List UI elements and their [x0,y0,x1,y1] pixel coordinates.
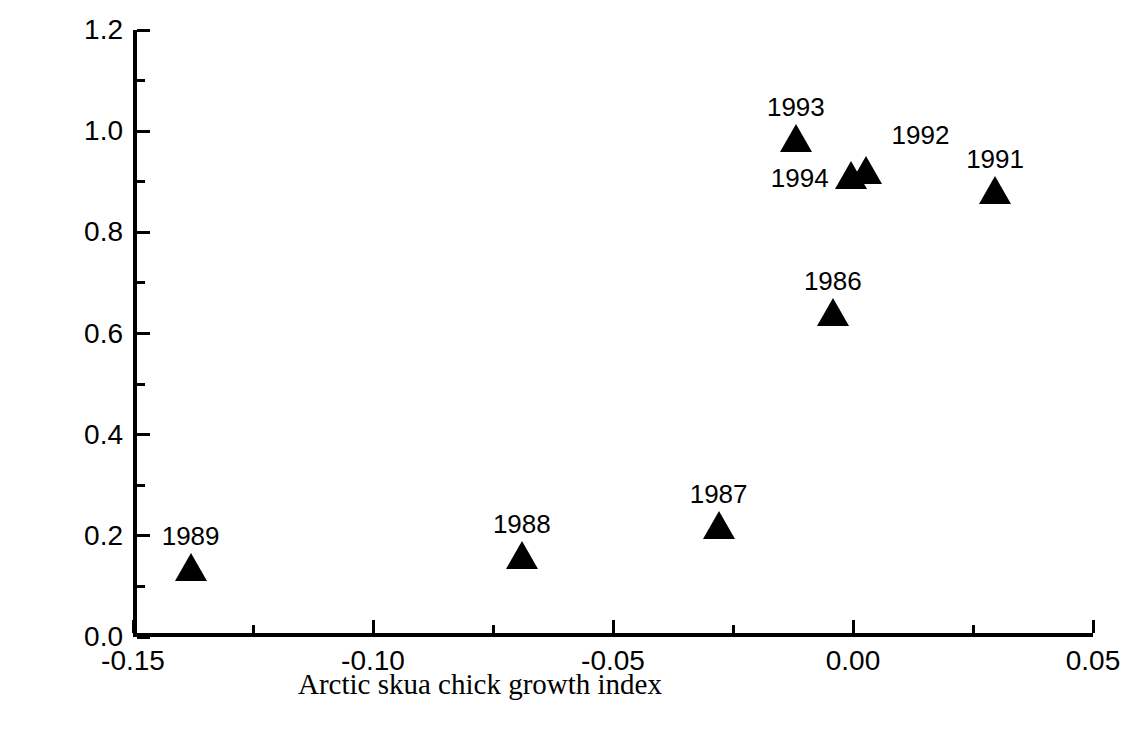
triangle-up-marker-icon [979,176,1011,204]
x-axis-minor-tick [252,625,255,633]
data-point-label: 1994 [771,163,829,194]
y-axis-minor-tick [137,383,145,386]
y-axis-tick-label: 1.2 [84,14,123,46]
x-tick-layer: -0.15-0.10-0.050.000.05 [133,633,1093,634]
x-axis-tick-label: 0.00 [826,645,881,677]
y-axis-minor-tick [137,484,145,487]
data-point-label: 1989 [162,521,220,552]
y-axis-major-tick [137,29,150,32]
x-axis-major-tick [1092,620,1095,633]
triangle-up-marker-icon [703,511,735,539]
data-point-label: 1986 [804,266,862,297]
plot-area: 0.00.20.40.60.81.01.2 -0.15-0.10-0.050.0… [133,30,1093,637]
y-axis-major-tick [137,231,150,234]
y-axis-minor-tick [137,585,145,588]
data-point-label: 1987 [690,479,748,510]
x-axis-tick-label: -0.05 [581,645,645,677]
chart-page: Number of fledglings per pair Arctic sku… [0,0,1137,739]
triangle-up-marker-icon [817,298,849,326]
data-point-label: 1992 [892,120,950,151]
x-axis-tick-label: 0.05 [1066,645,1121,677]
triangle-up-marker-icon [780,124,812,152]
x-axis-minor-tick [972,625,975,633]
triangle-up-marker-icon [506,541,538,569]
x-axis-tick-label: -0.10 [341,645,405,677]
data-point-label: 1993 [767,92,825,123]
x-axis-major-tick [132,620,135,633]
y-axis-major-tick [137,636,150,639]
data-point-label: 1991 [966,144,1024,175]
y-axis-minor-tick [137,180,145,183]
x-axis-major-tick [852,620,855,633]
x-axis-tick-label: -0.15 [101,645,165,677]
data-point-label: 1988 [493,509,551,540]
y-axis-minor-tick [137,79,145,82]
x-axis-minor-tick [492,625,495,633]
y-axis-major-tick [137,433,150,436]
y-axis-tick-label: 0.6 [84,318,123,350]
y-axis-minor-tick [137,281,145,284]
y-axis-tick-label: 1.0 [84,115,123,147]
y-axis-tick-label: 0.8 [84,216,123,248]
x-axis-major-tick [372,620,375,633]
y-axis-major-tick [137,534,150,537]
y-axis-major-tick [137,130,150,133]
y-axis-tick-label: 0.4 [84,419,123,451]
y-axis-major-tick [137,332,150,335]
x-axis-major-tick [612,620,615,633]
y-axis-tick-label: 0.2 [84,520,123,552]
x-axis-minor-tick [732,625,735,633]
triangle-up-marker-icon [850,156,882,184]
triangle-up-marker-icon [175,553,207,581]
